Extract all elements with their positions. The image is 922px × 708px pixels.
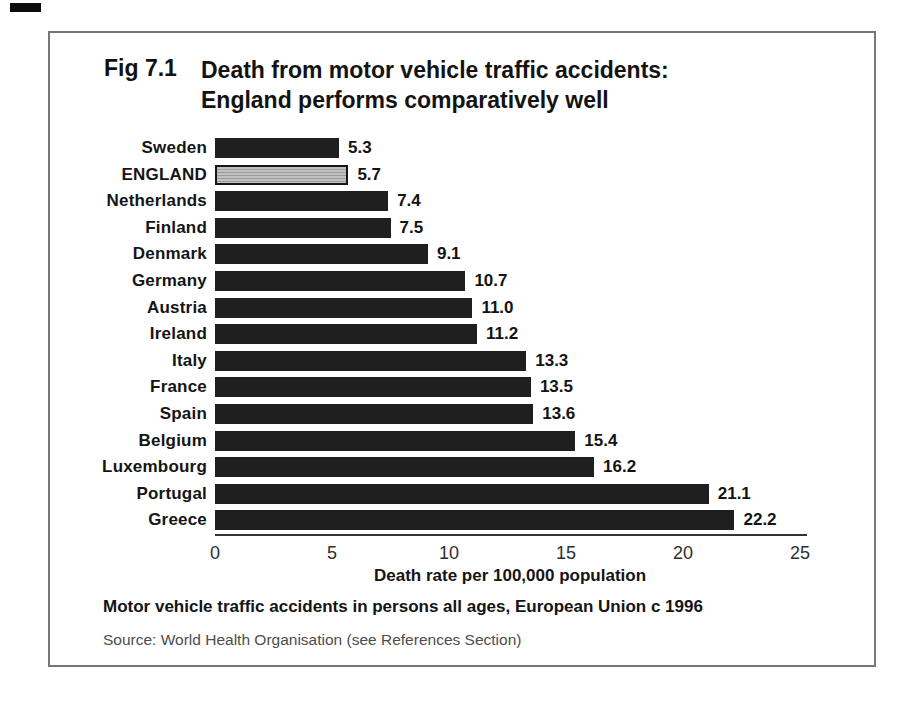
bar-row: Denmark 9.1 bbox=[0, 244, 922, 264]
country-label: Germany bbox=[40, 271, 207, 291]
bar bbox=[215, 138, 339, 158]
figure-number: Fig 7.1 bbox=[104, 55, 177, 82]
bar-row: Portugal 21.1 bbox=[0, 484, 922, 504]
bar bbox=[215, 431, 575, 451]
country-label: Netherlands bbox=[40, 191, 207, 211]
country-label: Greece bbox=[40, 510, 207, 530]
bar-row: ENGLAND 5.7 bbox=[0, 165, 922, 185]
value-label: 11.0 bbox=[481, 298, 513, 318]
country-label: Sweden bbox=[40, 138, 207, 158]
value-label: 21.1 bbox=[718, 484, 751, 504]
value-label: 9.1 bbox=[437, 244, 461, 264]
bar-row: Spain 13.6 bbox=[0, 404, 922, 424]
bar-row: Belgium 15.4 bbox=[0, 431, 922, 451]
country-label: ENGLAND bbox=[40, 165, 207, 185]
country-label: Belgium bbox=[40, 431, 207, 451]
country-label: Italy bbox=[40, 351, 207, 371]
bar-row: Germany 10.7 bbox=[0, 271, 922, 291]
source-note: Source: World Health Organisation (see R… bbox=[103, 631, 521, 649]
bar bbox=[215, 484, 709, 504]
bar bbox=[215, 351, 526, 371]
x-tick-label: 15 bbox=[556, 543, 576, 564]
value-label: 7.5 bbox=[400, 218, 424, 238]
bar bbox=[215, 377, 531, 397]
value-label: 10.7 bbox=[474, 271, 507, 291]
value-label: 11.2 bbox=[486, 324, 518, 344]
value-label: 5.3 bbox=[348, 138, 372, 158]
x-tick-label: 25 bbox=[790, 543, 810, 564]
bar-row: Italy 13.3 bbox=[0, 351, 922, 371]
value-label: 13.3 bbox=[535, 351, 568, 371]
country-label: Luxembourg bbox=[40, 457, 207, 477]
country-label: Finland bbox=[40, 218, 207, 238]
country-label: France bbox=[40, 377, 207, 397]
value-label: 16.2 bbox=[603, 457, 636, 477]
bar-row: Finland 7.5 bbox=[0, 218, 922, 238]
value-label: 5.7 bbox=[357, 165, 381, 185]
bar-row: Netherlands 7.4 bbox=[0, 191, 922, 211]
bar-row: Ireland 11.2 bbox=[0, 324, 922, 344]
value-label: 13.5 bbox=[540, 377, 573, 397]
x-axis-title: Death rate per 100,000 population bbox=[215, 566, 805, 586]
country-label: Austria bbox=[40, 298, 207, 318]
figure-title: Death from motor vehicle traffic acciden… bbox=[201, 55, 669, 115]
bar bbox=[215, 324, 477, 344]
value-label: 15.4 bbox=[584, 431, 617, 451]
figure-title-line2: England performs comparatively well bbox=[201, 85, 669, 115]
country-label: Portugal bbox=[40, 484, 207, 504]
x-tick-label: 5 bbox=[327, 543, 337, 564]
value-label: 22.2 bbox=[743, 510, 776, 530]
country-label: Denmark bbox=[40, 244, 207, 264]
value-label: 13.6 bbox=[542, 404, 575, 424]
bar-row: Sweden 5.3 bbox=[0, 138, 922, 158]
x-axis-line bbox=[215, 534, 807, 536]
scan-artifact-mark bbox=[10, 3, 41, 12]
value-label: 7.4 bbox=[397, 191, 421, 211]
x-tick-label: 0 bbox=[210, 543, 220, 564]
bar bbox=[215, 404, 533, 424]
x-tick-label: 20 bbox=[673, 543, 693, 564]
bar-row: Austria 11.0 bbox=[0, 298, 922, 318]
bar bbox=[215, 510, 734, 530]
bar bbox=[215, 298, 472, 318]
bar bbox=[215, 457, 594, 477]
bar-row: France 13.5 bbox=[0, 377, 922, 397]
country-label: Spain bbox=[40, 404, 207, 424]
bar bbox=[215, 165, 348, 185]
bar bbox=[215, 271, 465, 291]
bar bbox=[215, 191, 388, 211]
figure-title-line1: Death from motor vehicle traffic acciden… bbox=[201, 55, 669, 85]
x-tick-label: 10 bbox=[439, 543, 459, 564]
bar-row: Greece 22.2 bbox=[0, 510, 922, 530]
bar-row: Luxembourg 16.2 bbox=[0, 457, 922, 477]
country-label: Ireland bbox=[40, 324, 207, 344]
bar bbox=[215, 218, 391, 238]
bar bbox=[215, 244, 428, 264]
chart-caption: Motor vehicle traffic accidents in perso… bbox=[103, 597, 703, 617]
